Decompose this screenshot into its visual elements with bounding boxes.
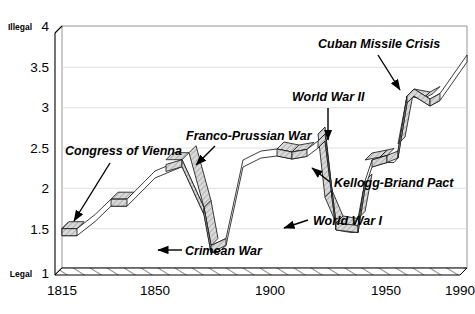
y-axis-legal-label: Legal: [10, 269, 32, 279]
x-tick-1850: 1850: [140, 283, 170, 298]
y-axis-ticks: 4 3.5 3 2.5 2 1.5 1: [30, 19, 49, 281]
x-axis-base-slab: [55, 268, 467, 275]
annotation-kellogg-briand-pact: Kellogg-Briand Pact: [312, 168, 454, 190]
annotation-label-franco-prussian-war: Franco-Prussian War: [186, 129, 313, 143]
annotation-congress-of-vienna: Congress of Vienna: [65, 144, 182, 221]
x-axis-ticks: 1815 1850 1900 1950 1990: [47, 283, 475, 298]
annotation-world-war-i: World War I: [284, 214, 383, 228]
ribbon-thickness-shading: [62, 89, 440, 253]
annotation-cuban-missile-crisis: Cuban Missile Crisis: [318, 37, 440, 90]
annotation-label-kellogg-briand-pact: Kellogg-Briand Pact: [334, 176, 454, 190]
annotation-crimean-war: Crimean War: [158, 244, 263, 258]
annotation-arrow-world-war-i: [284, 220, 308, 228]
annotation-arrow-cuban-missile-crisis: [378, 55, 400, 90]
x-tick-1950: 1950: [371, 283, 401, 298]
annotation-label-cuban-missile-crisis: Cuban Missile Crisis: [318, 37, 440, 51]
y-tick-1-5: 1.5: [30, 222, 49, 237]
y-tick-2: 2: [41, 181, 49, 196]
annotation-label-world-war-i: World War I: [313, 214, 383, 228]
x-tick-1990: 1990: [445, 283, 475, 298]
annotation-label-congress-of-vienna: Congress of Vienna: [65, 144, 182, 158]
x-tick-1900: 1900: [255, 283, 285, 298]
annotation-label-crimean-war: Crimean War: [185, 244, 263, 258]
y-tick-4: 4: [41, 19, 49, 34]
annotation-label-world-war-ii: World War II: [292, 90, 365, 104]
x-tick-1815: 1815: [47, 283, 77, 298]
legality-of-war-chart: 4 3.5 3 2.5 2 1.5 1 Illegal Legal 1815 1…: [0, 0, 475, 314]
y-tick-3: 3: [41, 100, 49, 115]
chart-container: 4 3.5 3 2.5 2 1.5 1 Illegal Legal 1815 1…: [0, 0, 475, 314]
y-tick-1: 1: [41, 266, 49, 281]
y-tick-3-5: 3.5: [30, 60, 49, 75]
y-tick-2-5: 2.5: [30, 141, 49, 156]
y-axis-endpoint-labels: Illegal Legal: [8, 22, 32, 279]
ribbon-shaded-faces: [62, 87, 440, 246]
y-axis-illegal-label: Illegal: [8, 22, 32, 32]
annotations-layer: Congress of Vienna Crimean War Franco-Pr…: [65, 37, 454, 258]
